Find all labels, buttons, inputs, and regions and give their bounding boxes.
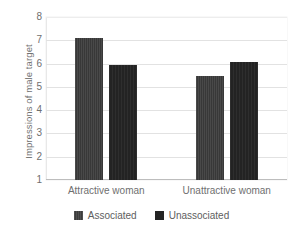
y-axis-tick-labels: 12345678 (24, 0, 42, 236)
legend-swatch-icon (155, 211, 164, 220)
legend-item-unassociated[interactable]: Unassociated (155, 210, 230, 221)
bar-unassociated-unattractive-woman (230, 62, 258, 180)
y-axis-tick-label: 2 (24, 152, 42, 162)
legend-item-associated[interactable]: Associated (74, 210, 137, 221)
y-axis-tick-label: 1 (24, 175, 42, 185)
y-axis-tick-label: 3 (24, 128, 42, 138)
legend-label: Associated (88, 210, 137, 221)
x-axis-tick-labels: Attractive womanUnattractive woman (46, 185, 287, 201)
y-axis-tick-label: 6 (24, 59, 42, 69)
bar-associated-attractive-woman (75, 38, 103, 180)
y-axis-line (46, 17, 47, 180)
bar-unassociated-attractive-woman (109, 65, 137, 180)
x-axis-tick-label: Attractive woman (68, 185, 145, 196)
gridline (46, 17, 287, 18)
plot-area (46, 17, 287, 180)
y-axis-tick-label: 4 (24, 105, 42, 115)
y-axis-tick-label: 7 (24, 35, 42, 45)
bar-chart-figure: Impressions of male target 12345678 Attr… (0, 0, 303, 236)
y-axis-tick-label: 8 (24, 12, 42, 22)
x-axis-tick-label: Unattractive woman (183, 185, 271, 196)
legend-label: Unassociated (169, 210, 230, 221)
legend-swatch-icon (74, 211, 83, 220)
y-axis-tick-label: 5 (24, 82, 42, 92)
bar-associated-unattractive-woman (196, 76, 224, 180)
chart-legend: AssociatedUnassociated (0, 210, 303, 221)
